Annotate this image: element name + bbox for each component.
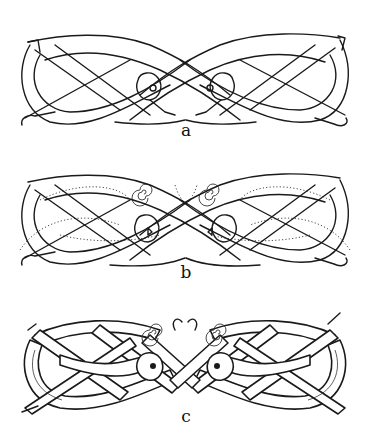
panel-label-c: c — [176, 408, 196, 425]
panel-label-b: b — [176, 264, 196, 281]
panel-b: b — [0, 140, 371, 285]
panel-c: c — [0, 280, 371, 430]
panel-a: a — [0, 0, 371, 145]
panel-label-a: a — [176, 122, 196, 139]
